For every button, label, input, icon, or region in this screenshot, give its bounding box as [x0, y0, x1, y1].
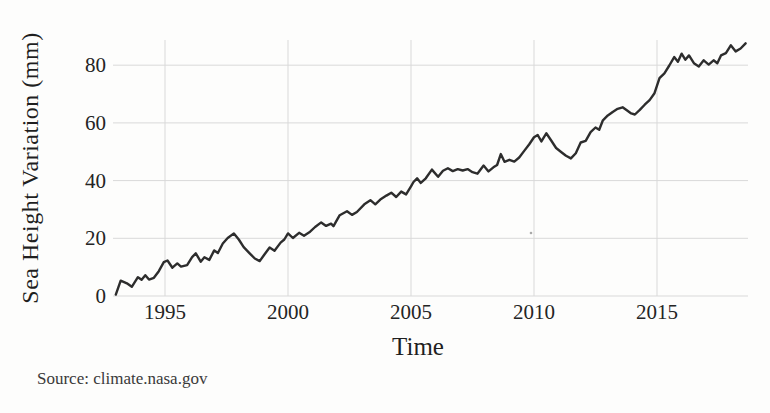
- sea-level-chart-figure: 19952000200520102015020406080 Sea Height…: [0, 0, 770, 413]
- sea-level-line: [116, 43, 746, 294]
- x-tick-label: 2005: [390, 300, 432, 324]
- x-tick-label: 1995: [144, 300, 186, 324]
- x-axis-label: Time: [392, 333, 444, 361]
- source-note: Source: climate.nasa.gov: [37, 369, 207, 389]
- x-tick-label: 2015: [636, 300, 678, 324]
- y-tick-label: 60: [85, 111, 106, 135]
- scan-speck: [530, 232, 533, 235]
- y-tick-label: 0: [96, 284, 107, 308]
- x-tick-label: 2000: [267, 300, 309, 324]
- y-tick-label: 80: [85, 53, 106, 77]
- line-chart-canvas: 19952000200520102015020406080: [0, 0, 770, 413]
- y-tick-label: 40: [85, 169, 106, 193]
- y-tick-label: 20: [85, 226, 106, 250]
- x-tick-label: 2010: [513, 300, 555, 324]
- y-axis-label: Sea Height Variation (mm): [17, 32, 44, 303]
